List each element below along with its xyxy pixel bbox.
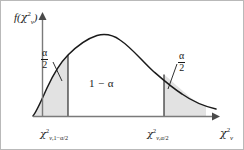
x-axis-label-text: χ2ν [220,127,233,139]
alpha-fraction-left: α 2 [41,48,48,70]
alpha-numerator-left: α [41,48,48,59]
y-axis-arrow-icon [39,12,47,20]
chi-square-figure: f(χ2ν) χ2ν χ2ν,1−α/2 χ2ν,α/2 α 2 α 2 1 −… [0,0,244,150]
alpha-over-two-label-left: α 2 [41,48,48,70]
central-region-area [68,35,164,116]
tick-label-right-critical-value: χ2ν,α/2 [147,128,169,142]
x-axis-label: χ2ν [220,127,233,142]
tick-label-left-text: χ2ν,1−α/2 [40,128,68,139]
alpha-denominator-left: 2 [41,59,48,71]
y-axis-label: f(χ2ν) [14,11,38,26]
tick-label-right-text: χ2ν,α/2 [147,128,169,139]
alpha-fraction-right: α 2 [178,51,185,73]
alpha-numerator-right: α [178,51,185,62]
alpha-denominator-right: 2 [178,62,185,74]
y-axis-label-text: f(χ2ν) [14,11,38,23]
x-axis-arrow-icon [212,113,220,121]
tick-label-left-critical-value: χ2ν,1−α/2 [40,128,68,142]
one-minus-alpha-label: 1 − α [89,78,114,89]
alpha-over-two-label-right: α 2 [178,51,185,73]
